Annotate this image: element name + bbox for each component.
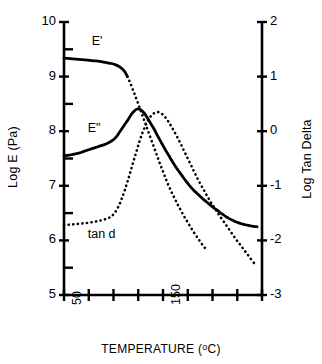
left-tick-label: 9 <box>26 68 56 83</box>
right-tick-label: 2 <box>270 13 300 28</box>
right-tick-label: 1 <box>270 68 300 83</box>
tan-d-label: tan d <box>88 227 116 241</box>
left-axis-ticks <box>59 22 73 295</box>
left-tick-label: 6 <box>26 231 56 246</box>
right-axis-title: Log Tan Delta <box>300 89 314 229</box>
e-double-prime-label: E" <box>88 121 101 135</box>
left-tick-label: 7 <box>26 177 56 192</box>
left-tick-label: 5 <box>26 286 56 301</box>
x-axis-title: TEMPERATURE (oC) <box>0 342 322 356</box>
axis-lines <box>64 22 262 295</box>
x-tick-label: 150 <box>169 284 183 305</box>
x-axis-title-tail: C) <box>208 342 221 356</box>
x-tick-label: 50 <box>70 291 84 305</box>
right-tick-label: -1 <box>270 177 300 192</box>
e-prime-label: E' <box>92 34 103 48</box>
right-tick-label: 0 <box>270 122 300 137</box>
series-tan-d <box>64 112 255 264</box>
left-tick-label: 10 <box>26 13 56 28</box>
right-tick-label: -3 <box>270 286 300 301</box>
dma-chart-figure: Log E (Pa) Log Tan Delta TEMPERATURE (oC… <box>0 0 322 364</box>
x-axis-title-main: TEMPERATURE ( <box>101 342 202 356</box>
right-tick-label: -2 <box>270 231 300 246</box>
left-axis-title: Log E (Pa) <box>6 97 20 217</box>
left-tick-label: 8 <box>26 122 56 137</box>
